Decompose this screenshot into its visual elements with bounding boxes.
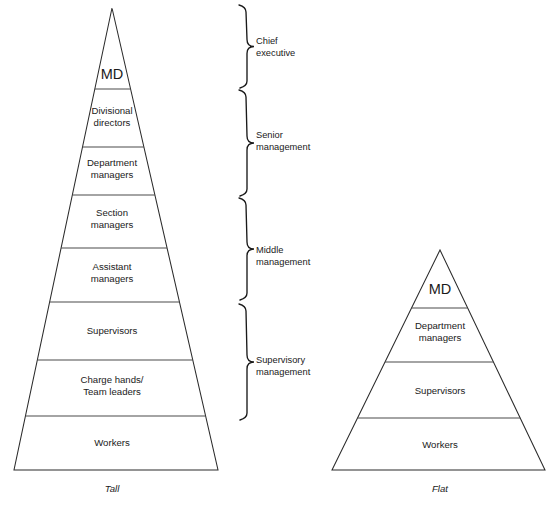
tier-label: Workers: [94, 437, 130, 448]
tier-label: Sectionmanagers: [91, 207, 134, 230]
tier-tall-workers[interactable]: Workers: [94, 437, 130, 448]
diagram-canvas: MDDivisionaldirectorsDepartmentmanagersS…: [0, 0, 557, 511]
management-level-label: Middlemanagement: [256, 245, 311, 267]
management-level-label: Seniormanagement: [256, 130, 311, 152]
management-level-middle-management[interactable]: Middlemanagement: [239, 198, 311, 300]
pyramid-flat: MDDepartmentmanagersSupervisorsWorkersFl…: [332, 250, 545, 494]
tier-label: Workers: [422, 439, 458, 450]
pyramid-caption-tall: Tall: [105, 483, 120, 494]
tier-label: MD: [429, 281, 452, 297]
brace-chief-executive: [239, 5, 254, 88]
management-level-chief-executive[interactable]: Chiefexecutive: [239, 5, 295, 88]
tier-flat-workers[interactable]: Workers: [422, 439, 458, 450]
brace-supervisory-management: [239, 304, 254, 420]
tier-label: Divisionaldirectors: [91, 105, 132, 128]
tier-label: MD: [101, 66, 124, 82]
pyramid-tall: MDDivisionaldirectorsDepartmentmanagersS…: [14, 8, 218, 494]
tier-label: Supervisors: [87, 325, 138, 336]
brace-senior-management: [239, 90, 254, 196]
tier-label: Departmentmanagers: [87, 157, 137, 180]
management-level-label: Supervisorymanagement: [256, 355, 311, 377]
management-level-supervisory-management[interactable]: Supervisorymanagement: [239, 304, 311, 420]
tier-label: Departmentmanagers: [415, 320, 465, 343]
pyramid-caption-flat: Flat: [432, 483, 448, 494]
org-structure-diagram: MDDivisionaldirectorsDepartmentmanagersS…: [0, 0, 557, 511]
brace-middle-management: [239, 198, 254, 300]
management-level-label: Chiefexecutive: [256, 36, 295, 58]
management-level-senior-management[interactable]: Seniormanagement: [239, 90, 311, 196]
tier-label: Supervisors: [415, 385, 466, 396]
tier-label: Charge hands/Team leaders: [81, 374, 144, 397]
tier-label: Assistantmanagers: [91, 261, 134, 284]
